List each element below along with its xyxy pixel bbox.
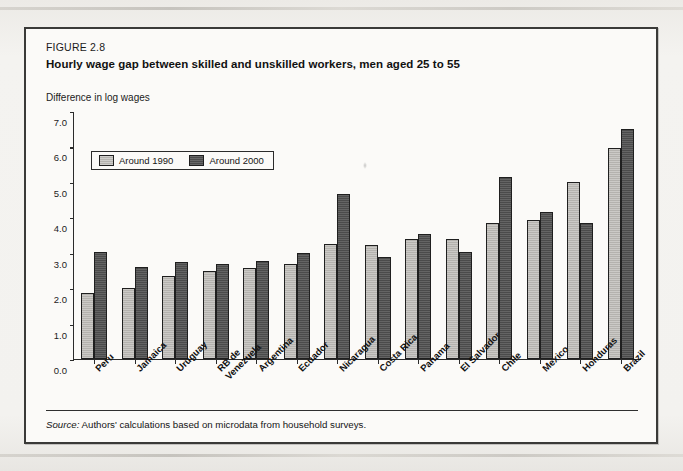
legend-item-1990: Around 1990 [99, 155, 173, 166]
source-prefix: Source: [46, 419, 79, 430]
x-label-cell: Nicaragua [316, 360, 357, 422]
bar-group [601, 112, 642, 359]
x-label-cell: El Salvador [438, 360, 479, 422]
bar [94, 252, 107, 359]
legend-label-1990: Around 1990 [119, 155, 173, 166]
bar [81, 293, 94, 359]
bar [297, 253, 310, 359]
legend-swatch-2000-icon [189, 155, 204, 166]
bar [446, 239, 459, 359]
bar-group [358, 112, 399, 359]
legend-label-2000: Around 2000 [209, 155, 263, 166]
x-label-cell: Uruguay [154, 360, 195, 422]
y-tick-label: 1.0 [54, 329, 74, 340]
bar [135, 267, 148, 359]
y-tick-label: 2.0 [54, 294, 74, 305]
figure-label: FIGURE 2.8 [46, 41, 105, 53]
bar-group [196, 112, 237, 359]
source-note: Source: Authors' calculations based on m… [46, 419, 366, 430]
bar [418, 234, 431, 359]
bar-group [317, 112, 358, 359]
bar-group [560, 112, 601, 359]
bar [122, 288, 135, 359]
bar [216, 264, 229, 359]
x-label-cell: Jamaica [114, 360, 155, 422]
x-label-cell: Argentina [235, 360, 276, 422]
bar-group [236, 112, 277, 359]
legend-swatch-1990-icon [99, 155, 114, 166]
x-label-cell: RB de Venezuela [195, 360, 236, 422]
bar-group [398, 112, 439, 359]
bar [499, 177, 512, 359]
chart-plot-area: 0.01.02.03.04.05.06.07.0 [73, 112, 641, 360]
x-label-cell: Honduras [560, 360, 601, 422]
legend-item-2000: Around 2000 [189, 155, 263, 166]
bar [621, 129, 634, 359]
figure-title: Hourly wage gap between skilled and unsk… [46, 58, 460, 70]
x-axis-labels: PeruJamaicaUruguayRB de VenezuelaArgenti… [73, 360, 641, 422]
bar-groups [74, 112, 641, 359]
scan-artifact-bottom [0, 454, 683, 457]
source-divider [46, 410, 638, 411]
x-label-cell: Costa Rica [357, 360, 398, 422]
y-axis-caption: Difference in log wages [46, 92, 150, 103]
y-tick-label: 7.0 [54, 117, 74, 128]
bar-group [520, 112, 561, 359]
y-tick-label: 3.0 [54, 258, 74, 269]
bar [567, 182, 580, 359]
bar-group [277, 112, 318, 359]
x-label-cell: Chile [479, 360, 520, 422]
bar [540, 212, 553, 359]
bar [459, 252, 472, 359]
source-text: Authors' calculations based on microdata… [82, 419, 367, 430]
bar-group [479, 112, 520, 359]
bar [378, 257, 391, 359]
bar-group [439, 112, 480, 359]
x-label-cell: Brazil [601, 360, 642, 422]
x-label-cell: Mexico [519, 360, 560, 422]
x-label-cell: Ecuador [276, 360, 317, 422]
y-tick-label: 0.0 [54, 365, 74, 376]
x-label-cell: Peru [73, 360, 114, 422]
y-tick-label: 5.0 [54, 187, 74, 198]
bar [337, 194, 350, 359]
y-tick-label: 6.0 [54, 152, 74, 163]
bar [527, 220, 540, 359]
figure-box: FIGURE 2.8 Hourly wage gap between skill… [24, 27, 658, 444]
bar [608, 148, 621, 359]
bar-group [74, 112, 115, 359]
chart-axes: 0.01.02.03.04.05.06.07.0 [73, 112, 641, 360]
bar-group [115, 112, 156, 359]
bar [175, 262, 188, 359]
x-label-cell: Panama [398, 360, 439, 422]
chart-legend: Around 1990 Around 2000 [91, 151, 274, 170]
bar-group [155, 112, 196, 359]
scan-artifact-top [0, 7, 683, 10]
y-tick-label: 4.0 [54, 223, 74, 234]
bar [580, 223, 593, 359]
